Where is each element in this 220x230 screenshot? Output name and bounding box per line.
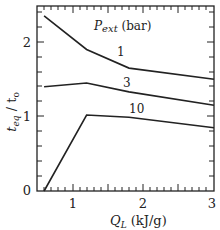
x-tick-1: 1: [69, 196, 77, 211]
y-tick-1: 1: [23, 109, 31, 124]
y-tick-0: 0: [23, 183, 31, 198]
series-label-3: 3: [123, 76, 131, 90]
series-label-1: 1: [117, 45, 125, 59]
y-axis-label: teq / to: [4, 92, 21, 132]
chart-canvas: 1 2 3 0 1 2 QL (kJ/g) teq / to Pext (bar…: [0, 0, 220, 230]
series-line-10: [44, 115, 214, 191]
y-tick-2: 2: [23, 35, 31, 50]
series-label-10: 10: [129, 102, 144, 116]
x-axis-label: QL (kJ/g): [110, 213, 167, 230]
plot-frame: [37, 6, 214, 191]
x-ticks: [44, 6, 206, 191]
legend-title: Pext (bar): [93, 19, 151, 34]
y-ticks: [37, 12, 214, 176]
x-tick-2: 2: [139, 196, 147, 211]
x-tick-3: 3: [208, 196, 216, 211]
